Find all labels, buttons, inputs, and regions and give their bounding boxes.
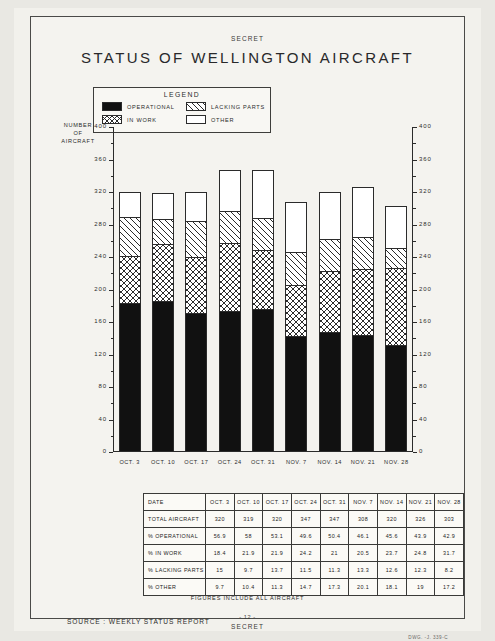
table-cell: 11.3 — [320, 562, 349, 579]
table-header-row: DATEOCT. 3OCT. 10OCT. 17OCT. 24OCT. 31NO… — [144, 494, 464, 511]
stacked-bar — [319, 192, 341, 452]
table-cell: 13.7 — [263, 562, 292, 579]
axis-tick-major — [413, 257, 417, 258]
y-axis-tick-label: 120 — [419, 351, 459, 357]
table-row: TOTAL AIRCRAFT32031932034734730832032630… — [144, 511, 464, 528]
axis-tick-major — [109, 290, 113, 291]
axis-tick-minor — [111, 403, 114, 404]
axis-tick-major — [413, 420, 417, 421]
bar-segment-lacking-parts — [386, 249, 406, 269]
bar-segment-in-work — [353, 270, 373, 335]
bar-segment-operational — [386, 346, 406, 451]
bar-segment-operational — [353, 336, 373, 451]
bar-segment-in-work — [186, 258, 206, 314]
table-cell: 13.3 — [349, 562, 378, 579]
bar-segment-in-work — [253, 251, 273, 310]
x-axis-tick-label: NOV. 28 — [374, 459, 418, 465]
axis-tick-minor — [111, 436, 114, 437]
stacked-bar — [252, 170, 274, 452]
legend-label-lacking-parts: LACKING PARTS — [211, 104, 265, 110]
table-cell: 18.4 — [205, 545, 234, 562]
classification-footer: SECRET — [31, 623, 464, 630]
table-cell: 12.6 — [377, 562, 406, 579]
y-axis-tick-label: 80 — [67, 383, 107, 389]
table-cell: 9.7 — [234, 562, 263, 579]
axis-tick-major — [413, 127, 417, 128]
bar-segment-other — [286, 203, 306, 253]
axis-tick-major — [413, 355, 417, 356]
table-cell: 20.5 — [349, 545, 378, 562]
axis-tick-major — [109, 160, 113, 161]
table-cell: 56.9 — [205, 528, 234, 545]
axis-tick-major — [109, 355, 113, 356]
legend-item-in-work: IN WORK — [102, 115, 186, 124]
bar-segment-lacking-parts — [253, 219, 273, 250]
table-cell: 31.7 — [435, 545, 464, 562]
bar-segment-lacking-parts — [286, 253, 306, 286]
page-number: - 12 - — [31, 614, 464, 620]
bar-segment-other — [120, 193, 140, 218]
table-cell: 18.1 — [377, 579, 406, 596]
bar-segment-lacking-parts — [186, 222, 206, 257]
table-cell: 58 — [234, 528, 263, 545]
axis-tick-minor — [413, 436, 416, 437]
axis-tick-major — [109, 387, 113, 388]
axis-tick-major — [109, 257, 113, 258]
axis-tick-minor — [413, 176, 416, 177]
bar-segment-other — [353, 188, 373, 238]
y-axis-tick-label: 120 — [67, 351, 107, 357]
y-axis-tick-label: 0 — [419, 448, 459, 454]
classification-header: SECRET — [31, 35, 464, 42]
table-row-header: % IN WORK — [144, 545, 206, 562]
axis-tick-major — [413, 322, 417, 323]
diagonal-hatch-swatch-icon — [186, 102, 206, 111]
table-row-header: % OPERATIONAL — [144, 528, 206, 545]
solid-black-swatch-icon — [102, 102, 122, 111]
table-row: % LACKING PARTS159.713.711.511.313.312.6… — [144, 562, 464, 579]
empty-white-swatch-icon — [186, 115, 206, 124]
bar-segment-in-work — [386, 269, 406, 346]
bar-segment-operational — [153, 302, 173, 451]
bar-segment-in-work — [220, 244, 240, 312]
y-axis-tick-label: 400 — [67, 123, 107, 129]
bar-segment-in-work — [286, 286, 306, 337]
table-cell: 308 — [349, 511, 378, 528]
chart-border-frame: SECRET STATUS OF WELLINGTON AIRCRAFT LEG… — [30, 16, 465, 619]
table-row-header: % OTHER — [144, 579, 206, 596]
table-cell: 24.2 — [291, 545, 320, 562]
axis-tick-minor — [413, 338, 416, 339]
bar-segment-operational — [253, 310, 273, 451]
bar-segment-lacking-parts — [220, 212, 240, 244]
axis-tick-minor — [111, 143, 114, 144]
table-cell: 326 — [406, 511, 435, 528]
axis-tick-minor — [111, 208, 114, 209]
stacked-bar — [219, 170, 241, 452]
axis-tick-minor — [413, 306, 416, 307]
axis-tick-minor — [111, 241, 114, 242]
stacked-bar — [285, 202, 307, 452]
legend-title: LEGEND — [94, 91, 270, 98]
y-axis-tick-label: 40 — [67, 416, 107, 422]
figures-note: FIGURES INCLUDE ALL AIRCRAFT — [31, 595, 464, 601]
table-column-header: NOV. 28 — [435, 494, 464, 511]
table-cell: 49.6 — [291, 528, 320, 545]
stacked-bar — [385, 206, 407, 452]
y-axis-tick-label: 280 — [67, 221, 107, 227]
y-axis-tick-label: 160 — [67, 318, 107, 324]
table-cell: 17.3 — [320, 579, 349, 596]
table-cell: 8.2 — [435, 562, 464, 579]
y-axis-tick-label: 200 — [419, 286, 459, 292]
bar-segment-in-work — [120, 257, 140, 305]
stacked-bar — [185, 192, 207, 452]
axis-tick-major — [413, 160, 417, 161]
table-cell: 45.6 — [377, 528, 406, 545]
legend-item-other: OTHER — [186, 115, 270, 124]
y-axis-tick-label: 200 — [67, 286, 107, 292]
axis-tick-major — [413, 290, 417, 291]
table-cell: 46.1 — [349, 528, 378, 545]
table-corner-header: DATE — [144, 494, 206, 511]
axis-tick-minor — [111, 371, 114, 372]
table-head: DATEOCT. 3OCT. 10OCT. 17OCT. 24OCT. 31NO… — [144, 494, 464, 511]
axis-tick-minor — [111, 338, 114, 339]
bar-segment-lacking-parts — [320, 240, 340, 272]
